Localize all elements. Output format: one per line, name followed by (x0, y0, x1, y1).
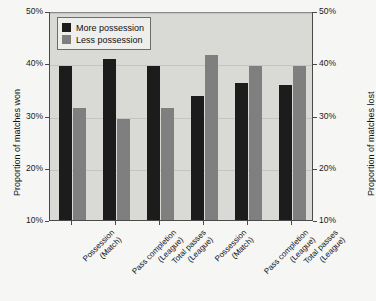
y-axis-left-title: Proportion of matches won (12, 89, 22, 196)
y-axis-left-tick-label: 20% (26, 164, 43, 173)
legend: More possession Less possession (57, 17, 151, 50)
legend-swatch-icon (62, 23, 71, 32)
y-axis-right-tick (313, 117, 317, 118)
y-axis-right-tick-label: 40% (319, 59, 336, 68)
legend-label: Less possession (76, 35, 143, 45)
legend-swatch-icon (62, 35, 71, 44)
y-axis-right-tick (313, 64, 317, 65)
y-axis-left-tick (45, 12, 49, 13)
y-axis-right-tick (313, 221, 317, 222)
y-axis-left-tick-label: 10% (26, 216, 43, 225)
bar-more-possession (279, 85, 292, 220)
y-axis-right-tick-label: 30% (319, 112, 336, 121)
x-axis-tick (291, 221, 292, 225)
y-axis-right-title: Proportion of matches lost (366, 91, 376, 196)
y-axis-right-tick (313, 12, 317, 13)
y-axis-left-tick-label: 50% (26, 7, 43, 16)
bar-more-possession (235, 83, 248, 220)
x-axis-tick (203, 221, 204, 225)
bar-less-possession (205, 55, 218, 220)
x-axis-tick-label: Possession(Match) (213, 228, 255, 270)
bar-more-possession (103, 59, 116, 220)
bar-less-possession (73, 108, 86, 220)
legend-item-less-possession: Less possession (62, 34, 144, 45)
y-axis-left-tick (45, 117, 49, 118)
y-axis-right-tick (313, 169, 317, 170)
y-axis-left-tick (45, 64, 49, 65)
x-axis-tick (159, 221, 160, 225)
bar-less-possession (249, 66, 262, 220)
bar-less-possession (117, 119, 130, 220)
x-axis-tick (115, 221, 116, 225)
x-axis-tick (247, 221, 248, 225)
y-axis-left-tick-label: 40% (26, 59, 43, 68)
y-axis-left-line (49, 12, 50, 221)
bar-more-possession (147, 66, 160, 220)
bar-less-possession (161, 108, 174, 220)
x-axis-tick-label: Possession(Match) (81, 228, 123, 270)
bar-more-possession (59, 66, 72, 220)
bar-less-possession (293, 66, 306, 220)
y-axis-right-tick-label: 50% (319, 7, 336, 16)
y-axis-left-tick (45, 169, 49, 170)
legend-label: More possession (76, 23, 144, 33)
y-axis-left-tick (45, 221, 49, 222)
y-axis-right-tick-label: 10% (319, 216, 336, 225)
bar-more-possession (191, 96, 204, 220)
y-axis-right-tick-label: 20% (319, 164, 336, 173)
x-axis-line (49, 220, 313, 221)
legend-item-more-possession: More possession (62, 22, 144, 33)
x-axis-tick (71, 221, 72, 225)
y-axis-left-tick-label: 30% (26, 112, 43, 121)
